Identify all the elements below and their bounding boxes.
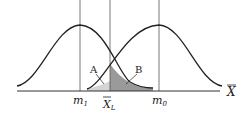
region-b — [110, 64, 153, 91]
label-m0: m0 — [152, 94, 167, 108]
axis-label: X — [226, 85, 236, 99]
left-curve — [17, 25, 153, 88]
label-m1: m1 — [73, 94, 88, 108]
region-a — [87, 81, 110, 91]
distribution-diagram: A B m1 XL m0 X — [0, 0, 246, 116]
label-a: A — [89, 64, 98, 75]
right-curve — [87, 25, 222, 89]
label-b: B — [135, 64, 142, 75]
label-xl: XL — [102, 98, 116, 112]
